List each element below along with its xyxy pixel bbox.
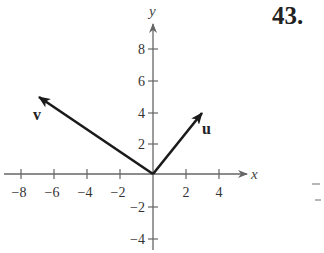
x-axis-label: x (250, 166, 258, 182)
x-tick-label: −4 (78, 185, 93, 200)
y-tick-label: 2 (138, 137, 145, 152)
vector-diagram: −8 −6 −4 −2 2 4 8 6 4 2 −2 −4 x y v u (0, 0, 324, 253)
y-tick-label: −2 (130, 200, 145, 215)
x-tick-label: −8 (12, 185, 27, 200)
x-tick-label: −6 (45, 185, 60, 200)
y-tick-label: −4 (130, 232, 145, 247)
y-tick-label: 4 (138, 106, 145, 121)
y-tick-label: 6 (138, 74, 145, 89)
x-tick-label: 4 (216, 185, 223, 200)
vector-v (39, 97, 153, 174)
vector-u-label: u (202, 120, 211, 137)
y-axis-label: y (147, 3, 156, 19)
vector-v-label: v (33, 106, 41, 123)
vector-u (153, 113, 202, 174)
x-tick-label: −2 (111, 185, 126, 200)
y-tick-label: 8 (138, 42, 145, 57)
x-tick-label: 2 (183, 185, 190, 200)
